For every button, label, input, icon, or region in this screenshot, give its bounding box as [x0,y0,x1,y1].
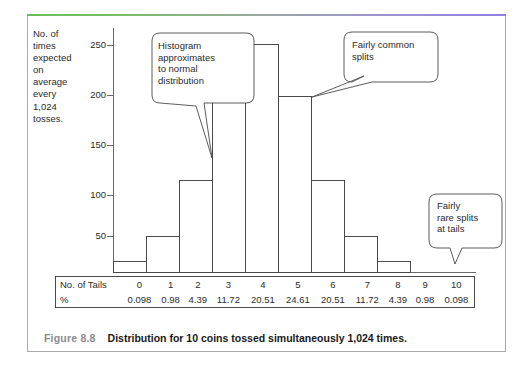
callout-label-fairly-common-splits: Fairly common splits [352,39,432,62]
table-cell-pct-3: 11.72 [211,292,245,308]
table-cell-tails-5: 5 [280,277,315,293]
table-cell-pct-1: 0.98 [157,292,184,308]
figure-caption: Figure 8.8Distribution for 10 coins toss… [44,332,407,344]
y-tick-label-50: 50 [80,230,106,241]
table-cell-tails-6: 6 [315,277,350,293]
table-cell-pct-6: 20.51 [315,292,350,308]
table-cell-pct-4: 20.51 [245,292,280,308]
table-row-percent: % 0.098 0.98 4.39 11.72 20.51 24.61 20.5… [56,292,475,308]
distribution-data-table: No. of Tails 0 1 2 3 4 5 6 7 8 9 10 % 0.… [55,276,475,308]
table-cell-pct-7: 11.72 [350,292,384,308]
figure-number: Figure 8.8 [44,332,96,344]
table-cell-tails-4: 4 [245,277,280,293]
table-cell-pct-2: 4.39 [184,292,211,308]
table-rowheader-percent: % [56,292,123,308]
y-tick-label-100: 100 [80,189,106,200]
table-cell-tails-10: 10 [439,277,475,293]
y-axis-caption: No. of times expected on average every 1… [33,28,85,125]
callout-label-histogram-normal: Histogram approximates to normal distrib… [158,40,244,86]
table-cell-pct-0: 0.098 [122,292,157,308]
table-cell-tails-7: 7 [350,277,384,293]
figure-caption-text: Distribution for 10 coins tossed simulta… [108,332,407,344]
y-tick-label-150: 150 [80,139,106,150]
table-cell-tails-2: 2 [184,277,211,293]
y-tick-label-200: 200 [80,89,106,100]
table-cell-tails-8: 8 [384,277,411,293]
callout-label-fairly-rare-splits: Fairly rare splits at tails [437,200,499,235]
table-cell-tails-9: 9 [412,277,439,293]
table-rowheader-no-of-tails: No. of Tails [56,277,123,293]
table-cell-tails-1: 1 [157,277,184,293]
table-cell-pct-9: 0.98 [412,292,439,308]
y-tick-label-250: 250 [80,39,106,50]
table-cell-pct-8: 4.39 [384,292,411,308]
table-row-no-of-tails: No. of Tails 0 1 2 3 4 5 6 7 8 9 10 [56,277,475,293]
table-cell-tails-0: 0 [122,277,157,293]
figure-top-accent-rule [27,14,506,16]
table-cell-pct-10: 0.098 [439,292,475,308]
table-cell-pct-5: 24.61 [280,292,315,308]
table-cell-tails-3: 3 [211,277,245,293]
